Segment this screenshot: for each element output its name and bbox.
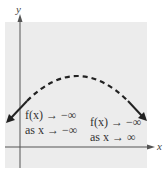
y-axis-arrow-icon: [18, 14, 23, 22]
y-axis-label: y: [16, 4, 21, 15]
right-annotation-line2: as x → ∞: [90, 131, 136, 143]
left-annotation-line2: as x → −∞: [25, 124, 77, 136]
left-annotation-line1: f(x) → −∞: [25, 109, 76, 121]
x-axis-label: x: [157, 141, 162, 152]
x-axis-arrow-icon: [147, 145, 155, 150]
right-annotation-line1: f(x) → −∞: [90, 116, 141, 128]
shaded-background: [5, 22, 147, 168]
graph-canvas: [0, 0, 163, 174]
